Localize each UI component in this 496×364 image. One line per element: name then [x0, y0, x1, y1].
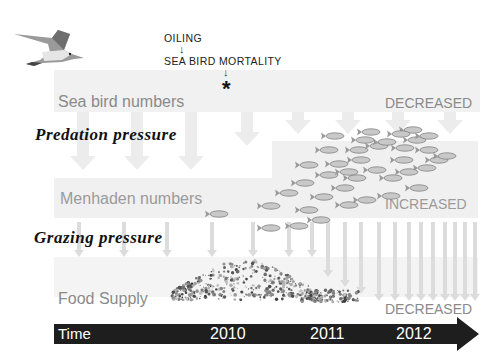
plankton-particle — [194, 291, 195, 292]
plankton-particle — [200, 280, 202, 282]
plankton-particle — [322, 295, 323, 296]
plankton-particle — [302, 284, 305, 287]
plankton-particle — [244, 296, 245, 297]
plankton-particle — [222, 298, 223, 299]
plankton-particle — [238, 266, 240, 268]
plankton-particle — [232, 263, 234, 265]
plankton-particle — [271, 281, 275, 285]
plankton-particle — [252, 284, 254, 286]
plankton-particle — [172, 291, 175, 294]
plankton-particle — [240, 291, 243, 294]
plankton-particle — [176, 292, 177, 293]
plankton-particle — [222, 290, 225, 293]
plankton-particle — [260, 296, 261, 297]
plankton-particle — [261, 267, 263, 269]
plankton-particle — [211, 290, 215, 294]
plankton-particle — [301, 293, 303, 295]
plankton-particle — [227, 270, 230, 273]
plankton-particle — [299, 286, 300, 287]
plankton-particle — [257, 285, 260, 288]
plankton-particle — [221, 294, 223, 296]
plankton-particle — [275, 286, 277, 288]
plankton-particle — [274, 268, 278, 272]
plankton-particle — [347, 290, 349, 292]
plankton-particle — [223, 287, 225, 289]
plankton-particle — [244, 260, 247, 263]
plankton-particle — [247, 294, 248, 295]
plankton-particle — [263, 279, 266, 282]
timeline-label: Time — [58, 325, 91, 342]
plankton-particle — [317, 292, 319, 294]
plankton-particle — [233, 283, 235, 285]
plankton-particle — [220, 287, 224, 291]
plankton-particle — [309, 294, 312, 297]
plankton-particle — [262, 277, 263, 278]
plankton-particle — [324, 289, 327, 292]
plankton-particle — [229, 283, 233, 287]
plankton-particle — [255, 287, 257, 289]
plankton-particle — [269, 274, 272, 277]
plankton-particle — [338, 301, 339, 302]
plankton-particle — [267, 267, 270, 270]
plankton-particle — [243, 275, 244, 276]
plankton-particle — [290, 278, 293, 281]
plankton-particle — [266, 282, 267, 283]
plankton-particle — [304, 290, 306, 292]
plankton-particle — [210, 286, 212, 288]
plankton-particle — [355, 291, 358, 294]
plankton-particle — [283, 286, 284, 287]
plankton-particle — [189, 286, 192, 289]
plankton-particle — [177, 290, 179, 292]
plankton-particle — [194, 282, 197, 285]
plankton-particle — [263, 267, 266, 270]
plankton-particle — [303, 298, 304, 299]
plankton-particle — [318, 291, 319, 292]
plankton-particle — [200, 296, 201, 297]
year-2010: 2010 — [210, 325, 246, 343]
plankton-particle — [252, 270, 253, 271]
plankton-particle — [208, 275, 209, 276]
plankton-particle — [219, 295, 220, 296]
plankton-particle — [252, 273, 253, 274]
plankton-particle — [295, 283, 296, 284]
plankton-particle — [234, 298, 237, 301]
year-2012: 2012 — [396, 325, 432, 343]
plankton-particle — [234, 265, 236, 267]
plankton-particle — [357, 298, 359, 300]
plankton-particle — [247, 293, 251, 297]
plankton-particle — [324, 300, 327, 303]
plankton-particle — [208, 287, 210, 289]
plankton-particle — [250, 287, 252, 289]
year-2011: 2011 — [310, 325, 344, 343]
plankton-particle — [253, 289, 255, 291]
plankton-particle — [181, 296, 183, 298]
plankton-particle — [213, 286, 214, 287]
plankton-particle — [180, 290, 182, 292]
plankton-particle — [314, 292, 316, 294]
plankton-particle — [288, 288, 291, 291]
plankton-particle — [279, 270, 280, 271]
timeline-arrow: Time 2010 2011 2012 — [54, 322, 484, 342]
plankton-particle — [236, 270, 240, 274]
plankton-particle — [199, 291, 203, 295]
plankton-particle — [188, 293, 192, 297]
plankton-particle — [279, 287, 282, 290]
plankton-particle — [279, 281, 280, 282]
plankton-particle — [215, 295, 216, 296]
plankton-particle — [347, 300, 349, 302]
plankton-particle — [273, 278, 275, 280]
plankton-particle — [181, 286, 185, 290]
plankton-particle — [342, 290, 344, 292]
plankton-particle — [313, 297, 315, 299]
plankton-particle — [320, 296, 321, 297]
plankton-particle — [290, 289, 292, 291]
plankton-particle — [231, 271, 234, 274]
plankton-particle — [299, 290, 302, 293]
plankton-particle — [315, 298, 317, 300]
plankton-particle — [310, 300, 311, 301]
plankton-particle — [341, 297, 343, 299]
plankton-particle — [204, 295, 206, 297]
plankton-particle — [329, 296, 331, 298]
plankton-particle — [281, 290, 285, 294]
plankton-particle — [218, 298, 219, 299]
